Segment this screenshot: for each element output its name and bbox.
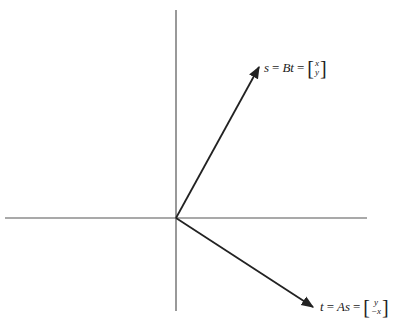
t-mid: As [337,299,350,315]
t-eq1: = [327,299,334,315]
t-vec-bottom: −x [371,307,381,316]
s-eq2: = [297,60,304,76]
s-eq1: = [272,60,279,76]
t-eq2: = [353,299,360,315]
vector-s-arrow [176,67,259,218]
t-lhs: t [320,299,324,315]
vector-t-label: t = As = [ y −x ] [320,297,389,317]
vector-t-arrow [176,218,313,307]
s-column-vector: x y [315,59,319,77]
vector-s-label: s = Bt = [ x y ] [264,58,327,78]
s-mid: Bt [282,60,294,76]
left-bracket: [ [307,58,314,78]
s-vec-bottom: y [315,68,319,77]
vector-diagram [0,0,400,321]
left-bracket: [ [363,297,370,317]
right-bracket: ] [382,297,389,317]
right-bracket: ] [320,58,327,78]
s-lhs: s [264,60,269,76]
t-column-vector: y −x [371,298,381,316]
